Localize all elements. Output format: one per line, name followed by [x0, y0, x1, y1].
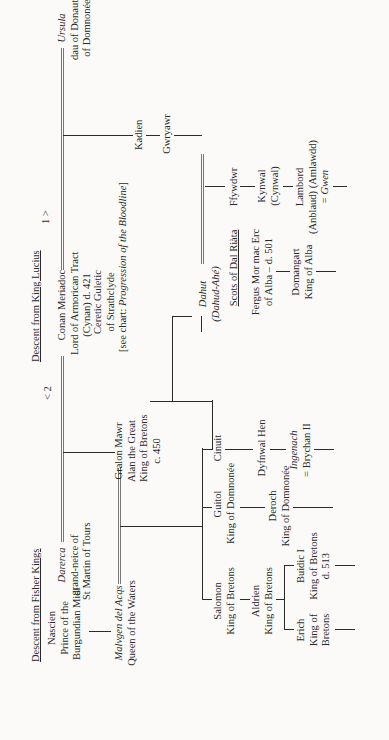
person-gwrgawr: Gwryawr: [161, 114, 174, 154]
line-domangart-continue: [316, 271, 336, 272]
line-dyfnwal-ingenach: [270, 449, 286, 450]
marker-left: < 2: [42, 386, 55, 400]
person-nascien: Nascien Prince of the Burgundian Midi: [46, 596, 84, 660]
person-kynwal: Kynwal (Cynwal): [256, 160, 281, 212]
person-kadien: Kadien: [133, 120, 146, 150]
line-lambord-continue: [333, 186, 347, 187]
heading-king-lucius: Descent from King Lucius: [30, 250, 43, 362]
person-conan-meriadoc: Conan Meriadoc Lord of Armorican Tract (…: [56, 255, 94, 355]
person-ingenach: Ingenach = Brychan II: [288, 416, 313, 484]
line-cinuit-dyfnwal: [225, 449, 253, 450]
genealogy-chart: Descent from Fisher Kings Descent from K…: [0, 0, 389, 740]
marriage-line-darerca-conan: [61, 356, 64, 542]
person-salomon: Salomon King of Bretons: [212, 562, 237, 640]
person-cinuit: Cinuit: [212, 430, 225, 466]
line-fergus-domangart: [276, 271, 290, 272]
line-deroch-down: [293, 507, 333, 508]
person-dahut: Dahut (Dahud-Ahé): [197, 264, 222, 324]
person-guitol: Guitol King of Domnonée: [212, 464, 237, 544]
line-to-cinuit: [202, 449, 212, 450]
person-gralon: Gralon Mawr Alan the Great King of Breto…: [113, 420, 163, 482]
line-darerca-conan-child: [63, 452, 115, 453]
line-buidic-continue: [335, 565, 355, 566]
line-to-buidic: [284, 565, 294, 566]
line-guitol-deroch: [240, 507, 265, 508]
heading-fisher-kings: Descent from Fisher Kings: [30, 549, 43, 662]
line-conan-ursula-child: [63, 135, 133, 136]
line-to-salomon: [202, 599, 212, 600]
person-erich: Erich King of Bretons: [295, 608, 333, 652]
line-to-guitol: [202, 507, 212, 508]
line-ceretic-to-cinuit: [172, 317, 173, 402]
heading-dal-riata: Scots of Dal Riàta: [228, 228, 241, 308]
line-ceretic-down: [150, 401, 172, 402]
line-aldrien-down: [276, 599, 284, 600]
line-kadien-gwrgawr: [146, 135, 160, 136]
line-salomon-aldrien: [240, 599, 250, 600]
marriage-line-conan-ursula: [61, 48, 64, 270]
person-ceretic: Ceretic Guletic of Strathclyde [see char…: [92, 252, 130, 352]
person-malvgen: Malvgen del Acqs Queen of the Waters: [113, 578, 138, 668]
line-erich-continue: [335, 629, 355, 630]
line-ingenach-continue: [314, 449, 334, 450]
line-ceretic-to-dahut: [172, 316, 192, 317]
line-kynwal-lambord: [283, 186, 293, 187]
person-domangart: Domangart King of Alba: [290, 234, 315, 310]
line-gwrgawr-marriage: [174, 135, 202, 136]
person-ffywdwr: Ffywdwr: [228, 164, 241, 210]
line-ffywdwr-kynwal: [240, 186, 255, 187]
line-nascien-malvgen: [89, 631, 111, 632]
ceretic-note: [see chart: Progression of the Bloodline…: [117, 252, 130, 352]
line-malvgen-gralon-children: [120, 526, 202, 527]
person-dyfnwal-hen: Dyfnwal Hen: [256, 418, 269, 478]
line-aldrien-children-bar: [284, 566, 285, 630]
person-lambord: Lambord (Anblaud) (Amlawdd) = Gwen: [294, 134, 332, 240]
line-ceretic-cinuit: [172, 401, 212, 402]
person-fergus: Fergus Mor mac Erc of Alba – d. 501: [250, 224, 275, 320]
marriage-line-dahut-gwrgawr: [201, 154, 204, 264]
marker-right: 1 >: [40, 210, 53, 224]
person-ursula: Ursula dau of Donaut of of Domnonée: [56, 0, 94, 60]
person-aldrien: Aldrien King of Bretons: [250, 562, 275, 640]
line-to-ffywdwr: [205, 186, 225, 187]
line-sibling-bar-salomon-guitol-cinuit: [202, 448, 203, 600]
line-to-erich: [284, 629, 294, 630]
person-buidic: Buidic I King of Bretons d. 513: [295, 526, 333, 606]
